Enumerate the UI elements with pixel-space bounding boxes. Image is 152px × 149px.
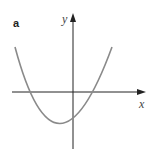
parabola-curve bbox=[15, 47, 112, 124]
parabola-plot bbox=[0, 0, 152, 149]
panel-label: a bbox=[13, 17, 19, 29]
x-axis-arrow-icon bbox=[137, 89, 146, 95]
y-axis-label: y bbox=[62, 12, 67, 27]
x-axis-label: x bbox=[139, 97, 144, 112]
y-axis-arrow-icon bbox=[70, 13, 76, 22]
